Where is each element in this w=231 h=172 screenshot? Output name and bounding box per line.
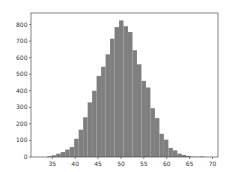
y-tick-label: 700 [16,37,28,44]
histogram-bar [155,118,159,157]
histogram-bar [97,76,101,157]
histogram-bar [173,150,177,157]
histogram-bar [79,130,83,157]
histogram-bar [159,134,163,157]
y-tick-label: 600 [16,54,28,61]
histogram-bar [88,102,92,157]
y-tick-label: 400 [16,87,28,94]
histogram-bar [101,67,105,157]
histogram-bar [119,20,123,157]
x-tick-label: 50 [117,160,125,167]
x-tick-label: 55 [140,160,148,167]
histogram-bar [74,139,78,157]
x-tick-label: 40 [71,160,79,167]
histogram-bar [146,87,150,157]
x-tick-label: 45 [94,160,102,167]
x-axis: 3540455055606570 [48,157,216,167]
x-tick-label: 35 [48,160,56,167]
histogram-bar [168,148,172,157]
histogram-bar [164,140,168,157]
histogram-bar [124,26,128,157]
histogram-bar [128,32,132,157]
histogram-bar [56,154,60,157]
y-tick-label: 200 [16,120,28,127]
histogram-bars [47,20,204,157]
histogram-bar [132,50,136,157]
histogram-bar [115,27,119,157]
histogram-bar [137,64,141,157]
histogram-bar [106,54,110,157]
histogram-bar [70,147,74,157]
y-axis: 0100200300400500600700800 [16,21,31,160]
histogram-bar [65,150,69,157]
x-tick-label: 65 [186,160,194,167]
histogram-bar [83,117,87,157]
y-tick-label: 500 [16,70,28,77]
y-tick-label: 800 [16,21,28,28]
histogram-chart: 0100200300400500600700800 35404550556065… [0,0,231,172]
histogram-bar [141,81,145,157]
histogram-bar [92,91,96,157]
histogram-bar [177,154,181,157]
histogram-bar [61,152,65,157]
x-tick-label: 60 [163,160,171,167]
x-tick-label: 70 [209,160,217,167]
histogram-bar [110,39,114,157]
y-tick-label: 100 [16,136,28,143]
histogram-bar [150,108,154,157]
y-tick-label: 0 [24,153,28,160]
y-tick-label: 300 [16,103,28,110]
